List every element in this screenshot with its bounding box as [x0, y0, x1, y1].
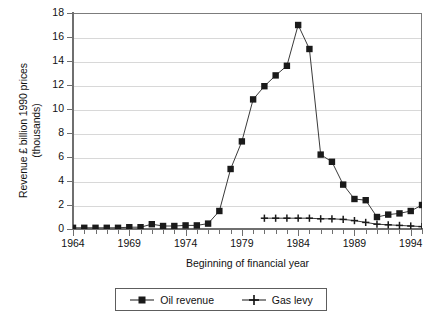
data-point-marker	[171, 223, 177, 229]
x-tick	[242, 230, 243, 236]
y-tick-label: 18	[34, 6, 64, 18]
legend-item-oil-revenue[interactable]: Oil revenue	[129, 294, 214, 306]
x-tick	[107, 230, 108, 234]
series-oil-revenue	[73, 22, 422, 229]
data-point-marker	[306, 46, 312, 52]
y-tick-label: 0	[34, 222, 64, 234]
data-point-marker	[126, 224, 132, 229]
data-point-marker	[92, 225, 98, 229]
y-tick	[67, 37, 72, 38]
data-point-marker	[408, 208, 414, 214]
x-tick-label: 1989	[334, 237, 374, 249]
x-tick-label: 1974	[166, 237, 206, 249]
x-tick	[332, 230, 333, 234]
data-point-marker	[250, 96, 256, 102]
data-point-marker	[329, 159, 335, 165]
data-point-marker	[363, 197, 369, 203]
data-point-marker	[137, 224, 143, 229]
data-point-marker	[73, 225, 76, 229]
data-point-marker	[351, 196, 357, 202]
y-tick	[67, 157, 72, 158]
x-tick	[174, 230, 175, 234]
x-tick	[276, 230, 277, 234]
y-tick	[67, 133, 72, 134]
y-tick	[67, 61, 72, 62]
data-point-marker	[272, 72, 278, 78]
chart-figure: Revenue £ billion 1990 prices (thousands…	[0, 0, 441, 320]
data-point-marker	[295, 22, 301, 28]
y-tick	[67, 229, 72, 230]
x-tick	[354, 230, 355, 236]
x-tick-label: 1979	[222, 237, 262, 249]
x-tick-label: 1969	[109, 237, 149, 249]
x-tick	[399, 230, 400, 234]
data-point-marker	[160, 223, 166, 229]
data-point-marker	[340, 181, 346, 187]
series-line	[73, 25, 422, 228]
data-point-marker	[374, 214, 380, 220]
data-point-marker	[396, 210, 402, 216]
x-tick	[377, 230, 378, 234]
x-tick-label: 1984	[278, 237, 318, 249]
x-tick	[231, 230, 232, 234]
x-tick	[388, 230, 389, 234]
x-tick-label: 1994	[391, 237, 431, 249]
data-point-marker	[419, 202, 422, 208]
x-tick	[366, 230, 367, 234]
x-tick	[219, 230, 220, 234]
data-point-marker	[317, 151, 323, 157]
x-tick	[321, 230, 322, 234]
x-tick	[197, 230, 198, 234]
data-point-marker	[115, 225, 121, 229]
x-tick	[129, 230, 130, 236]
x-tick	[343, 230, 344, 234]
x-tick	[163, 230, 164, 234]
x-tick	[287, 230, 288, 234]
x-tick	[118, 230, 119, 234]
data-point-marker	[81, 225, 87, 229]
x-tick	[253, 230, 254, 234]
y-tick-label: 12	[34, 78, 64, 90]
data-point-marker	[261, 83, 267, 89]
data-point-marker	[182, 222, 188, 228]
y-tick-label: 16	[34, 30, 64, 42]
data-point-marker	[385, 211, 391, 217]
y-tick	[67, 205, 72, 206]
x-tick-label: 1964	[53, 237, 93, 249]
data-point-marker	[284, 63, 290, 69]
y-tick	[67, 85, 72, 86]
legend-label-gas-levy: Gas levy	[272, 294, 313, 306]
y-tick	[67, 181, 72, 182]
y-tick-label: 14	[34, 54, 64, 66]
data-point-marker	[149, 221, 155, 227]
x-tick	[208, 230, 209, 234]
data-point-marker	[216, 208, 222, 214]
legend-marker-square-icon	[129, 294, 155, 306]
x-axis-title: Beginning of financial year	[73, 257, 422, 269]
data-series-layer	[73, 13, 422, 229]
y-tick-label: 10	[34, 102, 64, 114]
y-tick-label: 4	[34, 174, 64, 186]
y-tick-label: 2	[34, 198, 64, 210]
x-tick	[84, 230, 85, 234]
x-tick	[422, 230, 423, 234]
y-tick	[67, 109, 72, 110]
legend-label-oil-revenue: Oil revenue	[160, 294, 214, 306]
series-gas-levy	[261, 215, 422, 229]
data-point-marker	[104, 225, 110, 229]
legend-item-gas-levy[interactable]: Gas levy	[241, 294, 313, 306]
data-point-marker	[239, 138, 245, 144]
data-point-marker	[194, 222, 200, 228]
x-tick	[152, 230, 153, 234]
y-tick-label: 6	[34, 150, 64, 162]
x-tick	[73, 230, 74, 236]
x-tick	[309, 230, 310, 234]
data-point-marker	[227, 166, 233, 172]
chart-legend: Oil revenue Gas levy	[115, 288, 327, 311]
y-tick	[67, 13, 72, 14]
x-tick	[264, 230, 265, 234]
x-tick	[96, 230, 97, 234]
x-tick	[411, 230, 412, 236]
x-tick	[141, 230, 142, 234]
x-tick	[186, 230, 187, 236]
